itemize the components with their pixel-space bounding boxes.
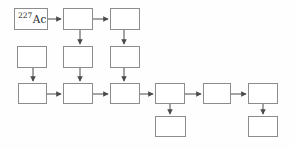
node-r3c6 [248, 83, 278, 104]
node-227ac: 227 Ac [14, 8, 48, 30]
mass-number-label: 227 [18, 12, 32, 20]
node-r3c2 [63, 83, 93, 104]
node-r3c4 [155, 83, 185, 104]
node-r1c3 [110, 8, 140, 30]
node-r1c2 [63, 8, 93, 30]
node-r2c1 [17, 46, 47, 68]
node-r4c2 [248, 116, 278, 137]
node-r3c1 [18, 83, 47, 104]
node-r3c5 [203, 83, 231, 104]
decay-chain-diagram: 227 Ac [0, 0, 295, 149]
node-r2c2 [63, 46, 93, 68]
element-symbol-label: Ac [33, 14, 46, 25]
node-r4c1 [155, 116, 186, 137]
node-r3c3 [110, 83, 140, 104]
node-r2c3 [110, 46, 140, 68]
